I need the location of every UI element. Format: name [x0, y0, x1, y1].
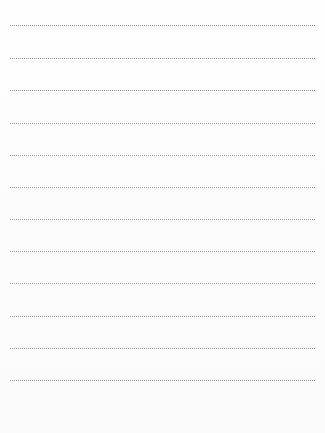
ruled-line — [10, 316, 315, 317]
ruled-line — [10, 58, 315, 59]
ruled-line — [10, 283, 315, 284]
ruled-line — [10, 219, 315, 220]
ruled-line — [10, 155, 315, 156]
ruled-line — [10, 187, 315, 188]
ruled-line — [10, 90, 315, 91]
ruled-line — [10, 123, 315, 124]
ruled-line — [10, 348, 315, 349]
ruled-line — [10, 251, 315, 252]
ruled-line — [10, 25, 315, 26]
ruled-line — [10, 380, 315, 381]
lined-paper-page — [0, 0, 325, 433]
